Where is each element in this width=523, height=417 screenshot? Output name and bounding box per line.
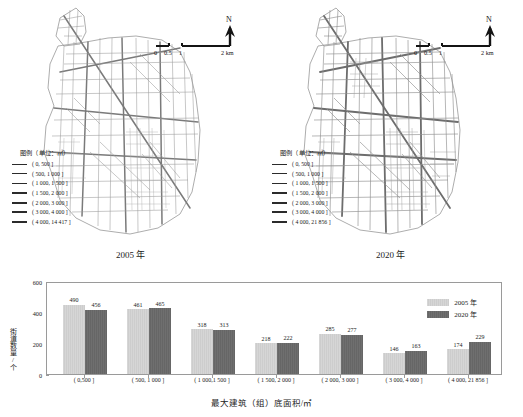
legend-title: 图例（单位：㎡） — [20, 148, 116, 157]
legend-swatch — [272, 221, 287, 224]
x-tick-label: ( 3 000, 4 000 ] — [386, 377, 423, 383]
legend-item: ( 2 000, 3 000 ] — [272, 198, 376, 208]
map-panel-2005: 0 0.5 1 2 km N 图例（单位：㎡） ( 0, 500 ] ( 50 — [8, 0, 253, 272]
legend-swatch — [272, 211, 287, 213]
legend-swatch — [12, 211, 27, 213]
legend-item: ( 1 000, 1 500 ] — [12, 179, 116, 189]
legend-item: ( 0, 500 ] — [12, 160, 116, 170]
svg-text:0: 0 — [414, 49, 417, 56]
legend-label: ( 3 000, 4 000 ] — [32, 209, 68, 215]
legend-label: ( 500, 1 000 ] — [292, 171, 323, 177]
svg-text:2 km: 2 km — [221, 49, 234, 56]
legend-swatch — [12, 221, 27, 224]
legend-swatch — [12, 164, 27, 165]
bar-chart: 街道数量/个 0 200 400 600 490 456 — [0, 272, 523, 417]
legend-item: ( 500, 1 000 ] — [272, 169, 376, 179]
map-caption-2020: 2020 年 — [268, 248, 513, 261]
legend-label: ( 1 500, 2 000 ] — [32, 190, 68, 196]
legend-label: ( 1 500, 2 000 ] — [292, 190, 328, 196]
legend-label: ( 4 000, 21 856 ] — [292, 219, 331, 225]
legend-item: ( 3 000, 4 000 ] — [272, 207, 376, 217]
legend-swatch — [272, 173, 287, 174]
scalebar-compass-2005: 0 0.5 1 2 km N — [152, 12, 247, 64]
legend-item: ( 500, 1 000 ] — [12, 169, 116, 179]
x-axis: ( 0,500 ] ( 500, 1 000 ] ( 1 000,1 500 ]… — [46, 272, 502, 392]
x-tick-label: ( 500, 1 000 ] — [132, 377, 165, 383]
legend-item: ( 4 000, 21 856 ] — [272, 217, 376, 227]
svg-text:0.5: 0.5 — [424, 49, 432, 56]
x-tick-label: ( 1 000,1 500 ] — [194, 377, 230, 383]
legend-item: ( 2 000, 3 000 ] — [12, 198, 116, 208]
svg-text:2 km: 2 km — [481, 49, 494, 56]
legend-swatch — [12, 173, 27, 174]
legend-swatch — [12, 202, 27, 204]
legend-item: ( 1 000, 1 500 ] — [272, 179, 376, 189]
svg-text:N: N — [226, 15, 232, 24]
y-tick-label: 0 — [39, 372, 42, 379]
y-tick-label: 400 — [33, 310, 42, 317]
legend-item: ( 0, 500 ] — [272, 160, 376, 170]
y-tick-label: 200 — [33, 341, 42, 348]
map-legend-2020: 图例（单位：㎡） ( 0, 500 ] ( 500, 1 000 ] ( 1 0… — [272, 148, 376, 227]
legend-label: ( 0, 500 ] — [292, 161, 313, 167]
legend-swatch — [12, 183, 27, 184]
legend-swatch — [272, 202, 287, 204]
legend-label: ( 4 000, 14 417 ] — [32, 219, 71, 225]
legend-swatch — [272, 192, 287, 193]
legend-label: ( 500, 1 000 ] — [32, 171, 63, 177]
svg-text:0: 0 — [154, 49, 157, 56]
legend-swatch — [272, 164, 287, 165]
scalebar-compass-2020: 0 0.5 1 2 km N — [412, 12, 507, 64]
svg-text:0.5: 0.5 — [164, 49, 172, 56]
x-tick-label: ( 4 000, 21 856 ] — [448, 377, 488, 383]
legend-label: ( 1 000, 1 500 ] — [292, 180, 328, 186]
legend-label: ( 1 000, 1 500 ] — [32, 180, 68, 186]
svg-text:N: N — [486, 15, 492, 24]
y-tick-label: 600 — [33, 279, 42, 286]
legend-label: ( 2 000, 3 000 ] — [292, 200, 328, 206]
legend-label: ( 0, 500 ] — [32, 161, 53, 167]
legend-label: ( 3 000, 4 000 ] — [292, 209, 328, 215]
legend-label: ( 2 000, 3 000 ] — [32, 200, 68, 206]
legend-item: ( 4 000, 14 417 ] — [12, 217, 116, 227]
figure-root: 0 0.5 1 2 km N 图例（单位：㎡） ( 0, 500 ] ( 50 — [0, 0, 523, 417]
legend-title: 图例（单位：㎡） — [280, 148, 376, 157]
x-tick-label: ( 0,500 ] — [74, 377, 95, 383]
legend-item: ( 1 500, 2 000 ] — [272, 188, 376, 198]
x-tick-label: ( 1 500, 2 000 ] — [258, 377, 295, 383]
x-axis-label: 最大建筑（组）底面积/㎡ — [0, 396, 523, 408]
maps-section: 0 0.5 1 2 km N 图例（单位：㎡） ( 0, 500 ] ( 50 — [0, 0, 523, 272]
map-caption-2005: 2005 年 — [8, 248, 253, 261]
svg-text:1: 1 — [179, 49, 182, 56]
map-panel-2020: 0 0.5 1 2 km N 图例（单位：㎡） ( 0, 500 ] ( 50 — [268, 0, 513, 272]
legend-swatch — [12, 192, 27, 193]
svg-text:1: 1 — [439, 49, 442, 56]
x-tick-label: ( 2 000, 3 000 ] — [322, 377, 359, 383]
legend-item: ( 3 000, 4 000 ] — [12, 207, 116, 217]
legend-swatch — [272, 183, 287, 184]
bar-chart-section: 街道数量/个 0 200 400 600 490 456 — [0, 272, 523, 417]
y-axis-label: 街道数量/个 — [8, 328, 18, 371]
map-legend-2005: 图例（单位：㎡） ( 0, 500 ] ( 500, 1 000 ] ( 1 0… — [12, 148, 116, 227]
legend-item: ( 1 500, 2 000 ] — [12, 188, 116, 198]
